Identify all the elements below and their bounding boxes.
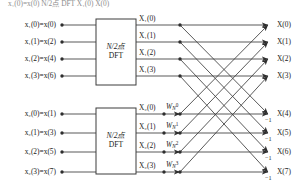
input-label-x2-1: x₂(1)=x(3): [0, 129, 56, 136]
twiddle-sup-3: 3: [176, 160, 179, 166]
mid-label-X1-0: X₁(0): [139, 15, 156, 22]
minus-one-label-2: −1: [265, 154, 272, 161]
output-label-X1: X(1): [277, 38, 291, 45]
output-label-X4: X(4): [277, 110, 291, 117]
input-label-x2-0: x₂(0)=x(1): [0, 110, 56, 117]
mid-label-X1-2: X₁(2): [139, 49, 156, 56]
dft-top-line1: N/2点: [107, 42, 126, 51]
mid-label-X2-3: X₂(3): [139, 162, 156, 169]
output-label-X6: X(6): [277, 148, 291, 155]
input-label-x1-0: x₁(0)=x(0): [0, 21, 56, 28]
input-label-x1-3: x₁(3)=x(6): [0, 72, 56, 79]
minus-one-label-3: −1: [265, 174, 272, 181]
twiddle-sup-1: 1: [176, 121, 179, 127]
dft-bottom-line1: N/2点: [107, 131, 126, 140]
minus-one-label-0: −1: [265, 116, 272, 123]
output-label-X3: X(3): [277, 72, 291, 79]
output-label-X2: X(2): [277, 55, 291, 62]
mid-label-X1-1: X₁(1): [139, 32, 156, 39]
input-label-x1-2: x₁(2)=x(4): [0, 55, 56, 62]
input-label-x1-1: x₁(1)=x(2): [0, 38, 56, 45]
output-label-X0: X(0): [277, 21, 291, 28]
output-label-X5: X(5): [277, 129, 291, 136]
mid-label-X2-2: X₂(2): [139, 142, 156, 149]
input-label-x2-2: x₂(2)=x(5): [0, 148, 56, 155]
twiddle-label-0: WN0: [166, 103, 178, 112]
input-label-x2-3: x₂(3)=x(7): [0, 168, 56, 175]
dft-top-line2: DFT: [109, 51, 123, 60]
dft-block-top-label: N/2点 DFT: [96, 42, 136, 61]
output-label-X7: X(7): [277, 168, 291, 175]
twiddle-label-1: WN1: [166, 122, 178, 131]
dft-bottom-line2: DFT: [109, 140, 123, 149]
fft-butterfly-figure: x₁(0)=x(0) N/2点 DFT X₁(0) X(0): [0, 0, 304, 194]
mid-label-X2-0: X₂(0): [139, 104, 156, 111]
twiddle-label-3: WN3: [166, 161, 178, 170]
twiddle-sup-0: 0: [176, 102, 179, 108]
mid-label-X2-1: X₂(1): [139, 123, 156, 130]
twiddle-sup-2: 2: [176, 140, 179, 146]
dft-block-bottom-label: N/2点 DFT: [96, 131, 136, 150]
twiddle-label-2: WN2: [166, 141, 178, 150]
mid-label-X1-3: X₁(3): [139, 66, 156, 73]
minus-one-label-1: −1: [265, 135, 272, 142]
